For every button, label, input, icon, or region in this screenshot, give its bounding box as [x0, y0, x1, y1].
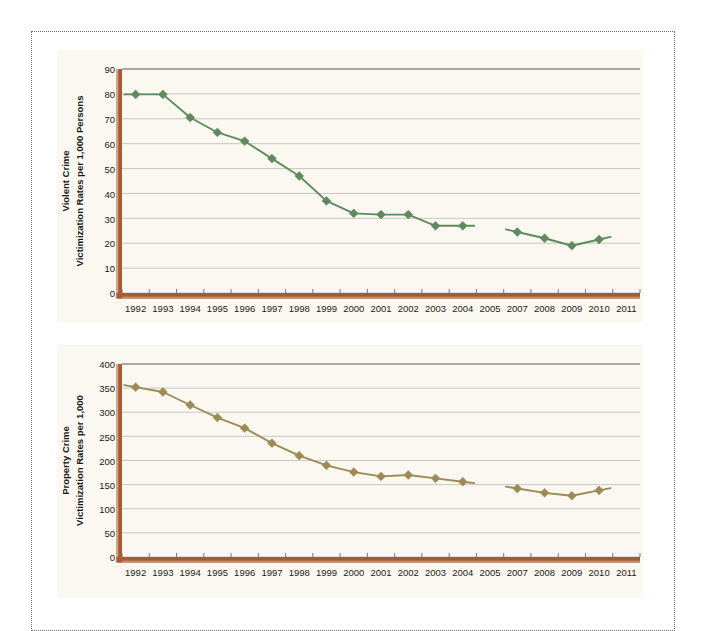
data-point-marker [540, 234, 549, 243]
data-point-marker [322, 461, 331, 470]
y-axis-tick-label: 100 [99, 504, 115, 515]
y-axis-title-line-2: Victimization Rates per 1,000 Persons [74, 96, 85, 267]
y-axis-tick-label: 250 [99, 432, 115, 443]
x-axis-tick-label: 2011 [616, 303, 636, 314]
y-axis-tick-label: 50 [104, 164, 115, 175]
property-crime-chart: 0501001502002503003504001992199319941995… [57, 345, 643, 598]
y-axis-tick-label: 20 [104, 238, 115, 249]
y-axis-tick-label: 60 [104, 139, 115, 150]
y-axis-title-line-1: Property Crime [60, 426, 71, 495]
property-crime-chart-panel: 0501001502002503003504001992199319941995… [57, 345, 643, 598]
y-axis-tick-label: 200 [99, 456, 115, 467]
x-axis-tick-label: 2003 [425, 567, 446, 578]
data-point-marker [431, 221, 440, 230]
y-axis-tick-label: 80 [104, 89, 115, 100]
data-point-marker [186, 401, 195, 410]
data-point-marker [349, 209, 358, 218]
x-axis-tick-label: 2010 [589, 567, 610, 578]
x-axis-tick-label: 2007 [507, 567, 528, 578]
x-axis-tick-label: 2001 [370, 567, 391, 578]
data-point-marker [158, 388, 167, 397]
x-axis-tick-label: 1994 [180, 303, 201, 314]
data-point-marker [595, 486, 604, 495]
data-point-marker [513, 484, 522, 493]
x-axis-tick-label: 1993 [152, 567, 173, 578]
data-point-marker [131, 90, 140, 99]
y-axis-tick-label: 10 [104, 263, 115, 274]
x-axis-spine-highlight [122, 297, 640, 299]
y-axis-tick-label: 0 [110, 288, 115, 299]
y-axis-tick-label: 30 [104, 214, 115, 225]
series-line [124, 385, 474, 483]
data-point-marker [131, 383, 140, 392]
y-axis-tick-label: 350 [99, 383, 115, 394]
x-axis-tick-label: 2001 [370, 303, 391, 314]
x-axis-tick-label: 2009 [561, 303, 582, 314]
x-axis-tick-label: 1995 [207, 303, 228, 314]
data-point-marker [540, 488, 549, 497]
data-point-marker [567, 491, 576, 500]
x-axis-tick-label: 1999 [316, 567, 337, 578]
data-point-marker [295, 451, 304, 460]
x-axis-tick-label: 2005 [479, 567, 500, 578]
data-point-marker [404, 471, 413, 480]
y-axis-title: Property CrimeVictimization Rates per 1,… [60, 395, 85, 526]
y-axis-tick-label: 300 [99, 407, 115, 418]
y-axis-tick-label: 150 [99, 480, 115, 491]
data-point-marker [567, 241, 576, 250]
x-axis-tick-label: 2004 [452, 567, 473, 578]
x-axis-tick-label: 2009 [561, 567, 582, 578]
x-axis-tick-label: 2008 [534, 303, 555, 314]
data-point-marker [268, 439, 277, 448]
y-axis-title-line-2: Victimization Rates per 1,000 [74, 395, 85, 526]
data-point-marker [513, 228, 522, 237]
data-point-marker [458, 221, 467, 230]
data-point-marker [595, 235, 604, 244]
x-axis-spine-highlight [122, 561, 640, 563]
x-axis-tick-label: 1992 [125, 567, 146, 578]
x-axis-tick-label: 2000 [343, 303, 364, 314]
y-axis-spine-highlight [117, 364, 119, 563]
x-axis-tick-label: 2003 [425, 303, 446, 314]
y-axis-tick-label: 40 [104, 189, 115, 200]
x-axis-tick-label: 2007 [507, 303, 528, 314]
y-axis-spine-highlight [117, 69, 119, 299]
y-axis-title: Violent CrimeVictimization Rates per 1,0… [60, 96, 85, 267]
x-axis-tick-label: 1999 [316, 303, 337, 314]
x-axis-tick-label: 1998 [289, 567, 310, 578]
data-point-marker [377, 472, 386, 481]
x-axis-tick-label: 2010 [589, 303, 610, 314]
x-axis-tick-label: 1998 [289, 303, 310, 314]
data-point-marker [349, 468, 358, 477]
data-point-marker [240, 424, 249, 433]
data-point-marker [377, 210, 386, 219]
x-axis-tick-label: 2000 [343, 567, 364, 578]
data-point-marker [431, 474, 440, 483]
x-axis-tick-label: 2002 [398, 303, 419, 314]
x-axis-tick-label: 1997 [261, 303, 282, 314]
x-axis-tick-label: 1996 [234, 303, 255, 314]
y-axis-tick-label: 400 [99, 359, 115, 370]
y-axis-tick-label: 50 [104, 528, 115, 539]
x-axis-tick-label: 2004 [452, 303, 473, 314]
x-axis-tick-label: 1996 [234, 567, 255, 578]
y-axis-tick-label: 0 [110, 552, 115, 563]
y-axis-tick-label: 90 [104, 64, 115, 75]
x-axis-tick-label: 1997 [261, 567, 282, 578]
x-axis-tick-label: 2005 [479, 303, 500, 314]
x-axis-tick-label: 2002 [398, 567, 419, 578]
violent-crime-chart: 0102030405060708090199219931994199519961… [57, 50, 643, 322]
data-point-marker [213, 128, 222, 137]
x-axis-tick-label: 1992 [125, 303, 146, 314]
x-axis-tick-label: 1994 [180, 567, 201, 578]
x-axis-tick-label: 2008 [534, 567, 555, 578]
data-point-marker [404, 210, 413, 219]
data-point-marker [213, 413, 222, 422]
violent-crime-chart-panel: 0102030405060708090199219931994199519961… [57, 50, 643, 322]
x-axis-tick-label: 1993 [152, 303, 173, 314]
y-axis-title-line-1: Violent Crime [60, 150, 71, 211]
series-line [124, 94, 474, 225]
x-axis-tick-label: 1995 [207, 567, 228, 578]
x-axis-tick-label: 2011 [616, 567, 636, 578]
